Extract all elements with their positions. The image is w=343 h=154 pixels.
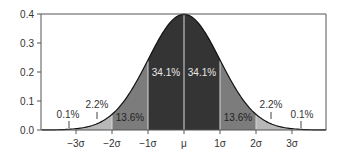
x-tick-minus-2sigma: −2σ xyxy=(103,138,121,149)
pct-left-1sigma: 13.6% xyxy=(116,112,144,123)
x-tick-minus-1sigma: −1σ xyxy=(139,138,157,149)
y-tick-2: 0.2 xyxy=(20,67,34,78)
normal-distribution-chart: 0.0 0.1 0.2 0.3 0.4 −3σ −2σ −1σ μ 1σ 2σ … xyxy=(0,0,343,154)
y-tick-3: 0.3 xyxy=(20,38,34,49)
x-tick-plus-3sigma: 3σ xyxy=(286,138,299,149)
y-tick-0: 0.0 xyxy=(20,125,34,136)
y-tick-4: 0.4 xyxy=(20,9,34,20)
pct-left-2sigma: 2.2% xyxy=(86,99,109,110)
x-tick-plus-2sigma: 2σ xyxy=(250,138,263,149)
x-ticks xyxy=(76,130,292,134)
pct-right-2sigma: 2.2% xyxy=(260,99,283,110)
pct-right-tail: 0.1% xyxy=(291,109,314,120)
x-tick-mu: μ xyxy=(181,138,187,149)
y-tick-labels: 0.0 0.1 0.2 0.3 0.4 xyxy=(20,9,34,136)
pct-left-center: 34.1% xyxy=(152,67,180,78)
x-tick-labels: −3σ −2σ −1σ μ 1σ 2σ 3σ xyxy=(67,138,298,149)
x-tick-minus-3sigma: −3σ xyxy=(67,138,85,149)
pct-right-center: 34.1% xyxy=(188,67,216,78)
y-ticks xyxy=(37,14,41,130)
x-tick-plus-1sigma: 1σ xyxy=(214,138,227,149)
pct-left-tail: 0.1% xyxy=(57,109,80,120)
pct-right-1sigma: 13.6% xyxy=(224,112,252,123)
y-tick-1: 0.1 xyxy=(20,96,34,107)
